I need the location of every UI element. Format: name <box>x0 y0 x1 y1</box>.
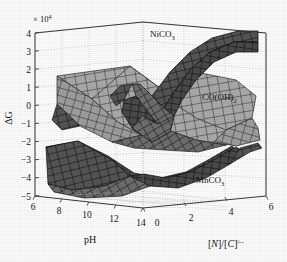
z-axis-multiplier: × 104 <box>33 14 51 25</box>
z-axis-label: ΔG <box>3 111 14 125</box>
z-tick-labels: 4 3 2 1 0 −1 −2 −3 −4 −5 <box>21 29 31 202</box>
annotation-cooh2-main: CO(OH) <box>202 92 234 102</box>
annotation-cooh2-sub: 2 <box>234 97 237 104</box>
z-tick-label: 2 <box>26 65 31 75</box>
z-tick-label: −2 <box>21 137 31 147</box>
z-tick-label: −3 <box>21 155 31 165</box>
y-tick-label: 2 <box>189 213 194 223</box>
annotation-nico3-main: NiCO <box>150 29 172 39</box>
annotation-mnco3-main: MnCO <box>196 175 222 185</box>
x-tick-label: 10 <box>82 210 92 220</box>
figure-3d-surface-plot: 4 3 2 1 0 −1 −2 −3 −4 −5 × 104 ΔG 6 8 10… <box>0 0 287 262</box>
z-tick-label: 3 <box>26 47 31 57</box>
z-tick-label: −5 <box>21 192 31 202</box>
y-axis-label: [N]/[C]⁄⋯ <box>208 238 245 249</box>
annotation-nico3: NiCO3 <box>150 29 175 41</box>
x-axis-label-text: pH <box>84 234 96 245</box>
x-tick-label: 6 <box>31 202 36 212</box>
y-tick-label: 4 <box>229 207 234 217</box>
annotation-mnco3: MnCO3 <box>196 175 224 187</box>
annotation-cooh2: CO(OH)2 <box>202 92 237 104</box>
z-axis-multiplier-base: × 10 <box>33 14 48 24</box>
z-tick-label: −1 <box>21 119 31 129</box>
y-tick-label: 0 <box>155 218 160 228</box>
z-tick-label: 0 <box>26 101 31 111</box>
z-axis-label-text: ΔG <box>3 111 14 125</box>
annotation-nico3-sub: 3 <box>172 34 175 41</box>
z-tick-label: 4 <box>26 29 31 39</box>
z-tick-label: −4 <box>21 173 31 183</box>
x-tick-label: 14 <box>136 218 146 228</box>
y-axis-label-trailing: ⁄⋯ <box>235 239 244 245</box>
x-tick-label: 8 <box>57 206 62 216</box>
x-axis-label: pH <box>84 234 96 245</box>
plot-canvas: 4 3 2 1 0 −1 −2 −3 −4 −5 × 104 ΔG 6 8 10… <box>0 0 287 262</box>
z-axis-multiplier-exponent: 4 <box>48 14 51 20</box>
x-tick-label: 12 <box>109 214 119 224</box>
z-tick-label: 1 <box>26 83 31 93</box>
y-tick-label: 6 <box>269 202 274 212</box>
annotation-mnco3-sub: 3 <box>221 180 224 187</box>
